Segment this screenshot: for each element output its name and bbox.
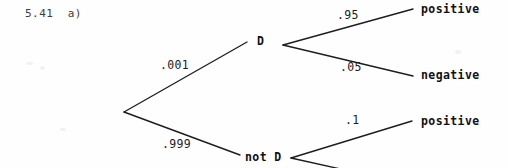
scan-speckle (60, 128, 66, 131)
scan-speckle (40, 66, 45, 70)
probability-label-root-to-not-d: .999 (162, 139, 191, 151)
node-label-d: D (257, 36, 264, 48)
probability-label-root-to-d: .001 (160, 60, 189, 72)
leaf-label-d-positive: positive (421, 4, 480, 16)
leaf-label-d-negative: negative (421, 70, 480, 82)
leaf-label-notd-positive: positive (421, 116, 480, 128)
exercise-number: 5.41 a) (25, 8, 82, 19)
scan-speckle (26, 62, 33, 65)
probability-label-notd-to-positive: .1 (345, 115, 359, 127)
probability-label-d-to-negative: .05 (340, 62, 362, 74)
tree-branches (0, 0, 508, 168)
branch-root-to-d (124, 42, 247, 112)
scan-speckle (455, 50, 461, 54)
node-label-not-d: not D (245, 152, 282, 164)
branch-notd-to-negative-cropped (291, 158, 345, 168)
probability-label-d-to-positive: .95 (337, 10, 359, 22)
figure-canvas: 5.41 a) .001 .999 .95 .05 .1 D not D pos… (0, 0, 508, 168)
